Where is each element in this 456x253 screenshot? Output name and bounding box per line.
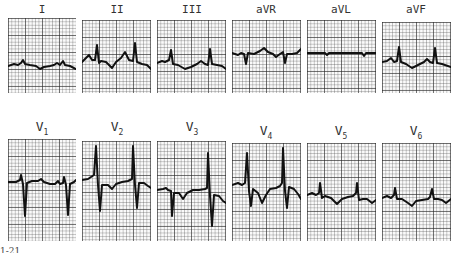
- lead-label-V2: V2: [82, 119, 152, 137]
- lead-label-V4: V4: [231, 123, 301, 141]
- ecg-strip-II: [82, 20, 151, 93]
- ecg-strip-V3: [157, 141, 226, 241]
- lead-label-aVL: aVL: [306, 3, 376, 16]
- ecg-strip-V5: [307, 143, 376, 241]
- ecg-strip-aVF: [382, 22, 451, 93]
- lead-label-aVR: aVR: [231, 3, 301, 16]
- ecg-strip-aVL: [307, 20, 376, 93]
- lead-label-aVF: aVF: [381, 3, 451, 16]
- figure-caption: 1-21: [0, 246, 20, 253]
- lead-label-II: II: [82, 3, 152, 16]
- lead-label-V6: V6: [381, 123, 451, 141]
- ecg-strip-III: [157, 20, 226, 93]
- lead-label-III: III: [157, 3, 227, 16]
- ecg-strip-V2: [82, 141, 151, 241]
- lead-label-V1: V1: [7, 119, 77, 137]
- ecg-strip-aVR: [232, 20, 301, 93]
- ecg-strip-I: [8, 18, 76, 93]
- lead-label-I: I: [7, 3, 77, 16]
- lead-label-V5: V5: [306, 123, 376, 141]
- ecg-strip-V1: [8, 139, 76, 241]
- ecg-strip-V4: [232, 143, 301, 241]
- ecg-strip-V6: [382, 143, 451, 241]
- lead-label-V3: V3: [157, 119, 227, 137]
